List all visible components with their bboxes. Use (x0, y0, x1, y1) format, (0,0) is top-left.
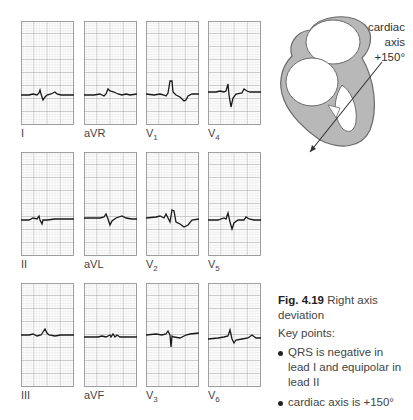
figure-number: Fig. 4.19 (278, 294, 324, 306)
lead-label-aVF: aVF (84, 390, 104, 401)
lead-label-V1: V1 (146, 128, 158, 142)
lead-label-aVL: aVL (84, 259, 104, 270)
key-point: QRS is negative in lead I and equipolar … (278, 345, 408, 390)
lead-label-II: II (21, 259, 27, 270)
key-points-list: QRS is negative in lead I and equipolar … (278, 345, 408, 410)
ecg-panel-lead-V4 (208, 21, 261, 125)
ecg-panel-lead-V5 (208, 152, 261, 256)
ecg-panel-lead-V1 (146, 21, 199, 125)
cardiac-axis-label: cardiac axis +150° (350, 20, 405, 65)
ecg-panel-lead-aVL (84, 152, 137, 256)
ecg-panel-lead-V3 (146, 283, 199, 387)
ecg-panel-lead-III (21, 283, 74, 387)
lead-label-V3: V3 (146, 390, 158, 404)
lead-label-III: III (21, 390, 30, 401)
ecg-panel-lead-V6 (208, 283, 261, 387)
key-point: cardiac axis is +150° (278, 395, 408, 410)
lead-label-I: I (21, 128, 24, 139)
lead-label-V2: V2 (146, 259, 158, 273)
lead-label-V4: V4 (208, 128, 220, 142)
figure-caption: Fig. 4.19 Right axis deviation Key point… (278, 293, 408, 415)
lead-label-V6: V6 (208, 390, 220, 404)
lead-label-V5: V5 (208, 259, 220, 273)
lead-label-aVR: aVR (84, 128, 105, 139)
ecg-panel-lead-I (21, 21, 74, 125)
ecg-panel-lead-V2 (146, 152, 199, 256)
ecg-panel-lead-II (21, 152, 74, 256)
key-points-heading: Key points: (278, 326, 408, 341)
ecg-panel-lead-aVF (84, 283, 137, 387)
ecg-panel-lead-aVR (84, 21, 137, 125)
